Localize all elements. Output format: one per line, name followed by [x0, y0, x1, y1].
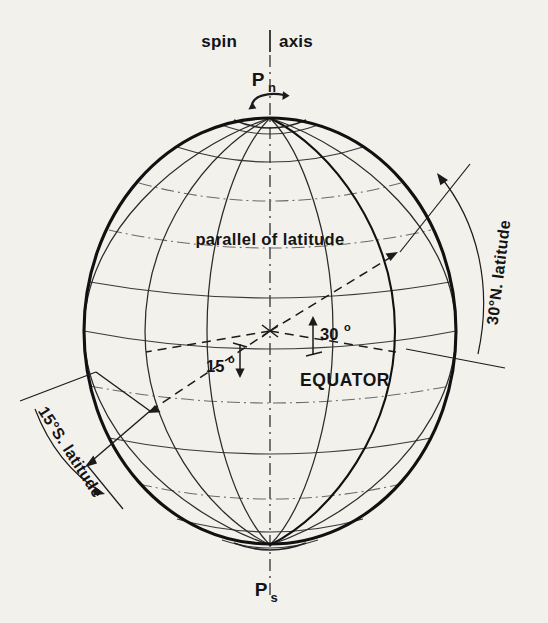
latitude-15s-measure-group: 15°S. latitude: [20, 372, 123, 509]
chord-15s-to-equator-rim: [96, 372, 150, 411]
latitude-15s-label: 15°S. latitude: [35, 403, 106, 500]
meridian-west-limb: [84, 118, 270, 545]
angle-30-degree-symbol: o: [344, 321, 351, 333]
north-pole-label-group: P n: [252, 69, 276, 95]
meridian-east-limb: [270, 118, 456, 545]
spin-rotation-arrow: [248, 91, 289, 109]
angle-15-arrowhead: [235, 368, 244, 378]
angle-30-base-tick: [306, 352, 322, 356]
spin-axis-label-group: spin axis: [201, 30, 313, 52]
angle-15-degree-symbol: o: [228, 353, 235, 365]
south-pole-label-group: P s: [255, 579, 278, 605]
angle-30-value: 30: [320, 325, 338, 343]
angle-30-arrowhead: [308, 316, 317, 326]
south-pole-subscript: s: [270, 590, 277, 605]
angle-30-label-group: 30 o: [320, 321, 351, 343]
latitude-30n-label: 30°N. latitude: [484, 219, 514, 326]
north-pole-subscript: n: [268, 80, 276, 95]
parallel-of-latitude-label: parallel of latitude: [195, 230, 344, 248]
latitude-diagram: spin axis P n: [0, 0, 548, 623]
leader-equator-left: [20, 372, 96, 401]
angle-15-value: 15: [206, 357, 224, 375]
leader-30n-right: [400, 164, 470, 252]
angle-15-label-group: 15 o: [206, 353, 235, 375]
spin-axis-label-right: axis: [279, 32, 313, 51]
north-pole-letter: P: [252, 69, 265, 90]
south-pole-letter: P: [255, 579, 268, 600]
equator-label: EQUATOR: [300, 370, 390, 390]
meridian-30w: [207, 118, 270, 545]
spin-axis-label-left: spin: [201, 32, 237, 51]
